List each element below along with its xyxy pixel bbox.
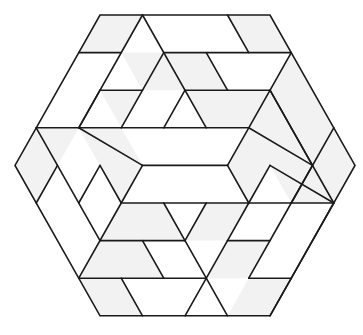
tile-edge: [206, 278, 227, 316]
shaded-parallelogram: [100, 203, 185, 241]
shaded-parallelogram: [228, 15, 292, 53]
hexagon-tiling-figure: [0, 0, 363, 335]
tile-edge: [185, 241, 206, 279]
tile-edge: [164, 90, 185, 128]
shaded-parallelogram: [79, 128, 143, 203]
shaded-parallelogram: [185, 203, 249, 241]
shaded-parallelogram: [79, 15, 143, 53]
shaded-parallelogram: [79, 241, 164, 279]
shaded-parallelogram: [79, 278, 143, 316]
shaded-parallelogram: [228, 278, 292, 316]
tile-edge: [79, 165, 100, 203]
tile-edge: [79, 90, 100, 128]
